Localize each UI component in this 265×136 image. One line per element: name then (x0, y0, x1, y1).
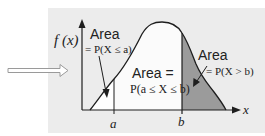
probability-density-diagram: f (x) x a b Area = P(X ≤ a) Area = P(a ≤… (0, 0, 265, 136)
tick-label-a: a (110, 117, 117, 130)
middle-area-formula: P(a ≤ X ≤ b) (130, 83, 190, 95)
x-axis-label: x (243, 103, 249, 116)
tick-label-b: b (178, 115, 185, 128)
middle-area-title: Area = (132, 66, 174, 80)
right-area-title: Area (198, 48, 228, 62)
y-axis-label: f (x) (54, 33, 79, 48)
left-area-title: Area (90, 27, 120, 41)
left-area-formula: = P(X ≤ a) (85, 44, 132, 55)
right-area-formula: = P(X > b) (206, 66, 254, 77)
